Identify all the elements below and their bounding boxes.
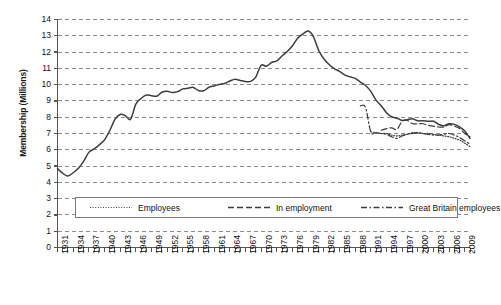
- legend-item: Employees: [90, 203, 180, 213]
- x-axis-tick-label: 1982: [327, 235, 336, 254]
- legend-item-label: In employment: [276, 203, 332, 213]
- x-axis-tick-label: 2003: [437, 235, 446, 254]
- legend-line-swatch: [361, 204, 403, 211]
- union-membership-chart: Membership (Millions) 012345678910111213…: [0, 0, 501, 305]
- x-axis-tick-label: 1931: [61, 235, 70, 254]
- legend-item: Great Britain employees: [361, 203, 500, 213]
- legend-line-swatch: [228, 204, 270, 211]
- y-axis-title: Membership (Millions): [18, 43, 28, 183]
- x-axis-tick-label: 2009: [468, 235, 477, 254]
- x-axis-tick-label: 1940: [108, 235, 117, 254]
- y-axis-tick-label: 1: [29, 227, 51, 236]
- x-axis-tick-label: 1994: [390, 235, 399, 254]
- y-axis-tick-label: 6: [29, 145, 51, 154]
- y-axis-tick-label: 12: [29, 48, 51, 57]
- chart-plot-area: [0, 0, 501, 305]
- y-axis-tick-label: 2: [29, 210, 51, 219]
- x-axis-tick-label: 2006: [453, 235, 462, 254]
- data-series-layer: [58, 31, 471, 176]
- y-axis-tick-label: 11: [29, 64, 51, 73]
- y-axis-tick-label: 8: [29, 113, 51, 122]
- y-axis-tick-label: 4: [29, 178, 51, 187]
- legend-line-swatch: [90, 204, 132, 211]
- legend-item: In employment: [228, 203, 332, 213]
- y-axis-tick-label: 13: [29, 31, 51, 40]
- x-axis-tick-label: 1985: [343, 235, 352, 254]
- x-axis-tick-label: 1964: [233, 235, 242, 254]
- x-axis-tick-label: 1988: [359, 235, 368, 254]
- y-axis-tick-label: 7: [29, 129, 51, 138]
- chart-legend: EmployeesIn employmentGreat Britain empl…: [75, 197, 458, 218]
- legend-item-label: Employees: [138, 203, 180, 213]
- x-axis-tick-label: 1946: [139, 235, 148, 254]
- y-axis-tick-label: 3: [29, 194, 51, 203]
- x-axis-tick-label: 1943: [124, 235, 133, 254]
- x-axis-tick-label: 1949: [155, 235, 164, 254]
- x-axis-tick-label: 2000: [421, 235, 430, 254]
- x-axis-tick-label: 1970: [265, 235, 274, 254]
- legend-item-label: Great Britain employees: [409, 203, 500, 213]
- y-axis-tick-label: 0: [29, 243, 51, 252]
- y-axis-tick-label: 9: [29, 96, 51, 105]
- y-axis-tick-label: 5: [29, 162, 51, 171]
- x-axis-tick-label: 1934: [77, 235, 86, 254]
- x-axis-tick-label: 1997: [406, 235, 415, 254]
- y-axis-tick-label: 14: [29, 15, 51, 24]
- x-axis-tick-label: 1967: [249, 235, 258, 254]
- series-line: [58, 31, 471, 176]
- x-axis-tick-label: 1973: [280, 235, 289, 254]
- x-axis-tick-label: 1937: [92, 235, 101, 254]
- x-axis-tick-label: 1955: [186, 235, 195, 254]
- x-axis-tick-label: 1976: [296, 235, 305, 254]
- x-axis-tick-label: 1991: [374, 235, 383, 254]
- x-axis-tick-label: 1958: [202, 235, 211, 254]
- y-axis-tick-label: 10: [29, 80, 51, 89]
- x-axis-tick-label: 1952: [171, 235, 180, 254]
- x-axis-tick-label: 1979: [312, 235, 321, 254]
- x-axis-tick-label: 1961: [218, 235, 227, 254]
